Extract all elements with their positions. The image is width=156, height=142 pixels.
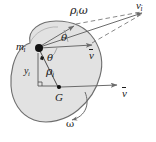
omega-label: ω [66, 119, 74, 129]
rigid-body-velocity-figure: mi ρiω vi v v θ θ yi ρi G ω [0, 0, 156, 142]
velocity-i-label: vi [136, 0, 142, 13]
rho-omega-label: ρiω [70, 5, 88, 17]
mass-element-point [35, 44, 43, 52]
v-bar-upper-label: v [89, 50, 94, 61]
parallelogram-dashed-lower [92, 14, 142, 43]
theta-upper-label: θ [61, 33, 67, 43]
center-of-mass-label: G [55, 92, 63, 103]
theta-lower-label: θ [47, 53, 53, 63]
mass-element-label: mi [16, 41, 25, 54]
rho-label: ρi [46, 66, 54, 78]
y-distance-label: yi [24, 66, 30, 77]
center-of-mass-point [57, 85, 61, 89]
v-bar-lower-label: v [122, 88, 127, 99]
